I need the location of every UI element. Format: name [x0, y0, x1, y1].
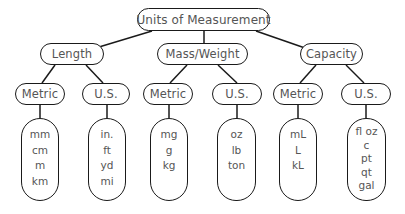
unit: kL: [292, 158, 304, 174]
units-mass-metric: mg g kg: [150, 118, 188, 201]
root-node: Units of Measurement: [137, 8, 270, 31]
unit: m: [35, 158, 45, 174]
system-mass-us: U.S.: [212, 83, 262, 105]
units-mass-us: oz lb ton: [217, 118, 256, 201]
unit: yd: [101, 158, 114, 174]
category-length: Length: [40, 43, 104, 65]
units-capacity-us: fl oz c pt qt gal: [347, 118, 386, 201]
category-label: Capacity: [306, 47, 357, 61]
unit: L: [295, 143, 301, 159]
unit: ft: [103, 143, 111, 159]
system-label: U.S.: [354, 87, 377, 101]
system-label: Metric: [280, 87, 316, 101]
system-length-us: U.S.: [82, 83, 130, 105]
connector-lines: [0, 0, 405, 214]
unit: c: [364, 139, 370, 153]
unit: pt: [361, 152, 372, 166]
system-capacity-us: U.S.: [341, 83, 391, 105]
unit: in.: [101, 127, 114, 143]
category-mass-weight: Mass/Weight: [157, 43, 248, 65]
category-label: Length: [52, 47, 92, 61]
unit: kg: [163, 158, 176, 174]
category-label: Mass/Weight: [166, 47, 240, 61]
system-label: U.S.: [94, 87, 117, 101]
units-length-metric: mm cm m km: [21, 118, 59, 201]
root-label: Units of Measurement: [136, 13, 270, 27]
system-label: Metric: [150, 87, 186, 101]
unit: mg: [161, 127, 178, 143]
unit: mi: [100, 174, 113, 190]
system-label: U.S.: [225, 87, 248, 101]
unit: lb: [232, 143, 242, 159]
category-capacity: Capacity: [300, 43, 363, 65]
unit: mL: [290, 127, 306, 143]
unit: g: [166, 143, 173, 159]
unit: cm: [32, 143, 48, 159]
unit: fl oz: [356, 125, 378, 139]
system-mass-metric: Metric: [143, 83, 193, 105]
unit: qt: [361, 166, 372, 180]
system-label: Metric: [22, 87, 58, 101]
system-length-metric: Metric: [15, 83, 65, 105]
unit: oz: [231, 127, 243, 143]
system-capacity-metric: Metric: [273, 83, 323, 105]
unit: km: [32, 174, 48, 190]
unit: gal: [358, 179, 374, 193]
unit: ton: [228, 158, 245, 174]
units-length-us: in. ft yd mi: [88, 118, 126, 201]
unit: mm: [30, 127, 50, 143]
units-capacity-metric: mL L kL: [279, 118, 317, 201]
